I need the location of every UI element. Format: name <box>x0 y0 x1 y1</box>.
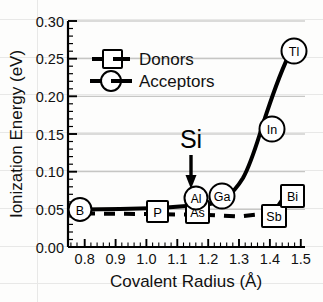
data-point-label: Al <box>191 192 202 206</box>
y-tick-label: 0.20 <box>36 89 64 105</box>
data-point-label: Sb <box>266 210 281 224</box>
x-tick-label: 1.2 <box>198 251 218 267</box>
x-tick-label: 1.4 <box>260 251 280 267</box>
x-tick-label: 1.5 <box>291 251 311 267</box>
y-tick-label: 0.05 <box>36 202 64 218</box>
x-axis-title: Covalent Radius (Å) <box>110 272 262 291</box>
data-point-label: B <box>76 204 84 218</box>
ionization-energy-chart: 0.30 0.25 0.20 0.15 0.10 0.05 0.00 0.8 0… <box>0 0 323 302</box>
data-point-Bi: Bi <box>281 185 304 207</box>
data-point-Sb: Sb <box>262 205 286 227</box>
x-tick-label: 0.8 <box>75 251 95 267</box>
data-point-Tl: Tl <box>282 39 307 64</box>
data-point-label: P <box>153 205 162 220</box>
data-point-Ga: Ga <box>210 184 235 209</box>
y-tick-label: 0.15 <box>36 127 64 143</box>
data-point-P: P <box>147 201 168 222</box>
y-tick-label: 0.00 <box>36 240 64 256</box>
x-tick-label: 1.1 <box>167 251 187 267</box>
x-tick-label: 0.9 <box>106 251 126 267</box>
data-point-B: B <box>69 198 92 221</box>
data-point-label: Tl <box>289 45 299 59</box>
data-point-In: In <box>260 117 285 142</box>
legend-item-acceptors: Acceptors <box>90 71 215 91</box>
y-axis-title: Ionization Energy (eV) <box>7 50 26 218</box>
si-annotation-label: Si <box>180 125 202 153</box>
y-tick-label: 0.25 <box>36 51 64 67</box>
data-point-Al: Al <box>185 187 208 210</box>
legend-label-acceptors: Acceptors <box>139 72 215 91</box>
x-tick-label: 1.0 <box>136 251 156 267</box>
data-point-label: Ga <box>214 190 231 204</box>
data-point-label: In <box>267 123 277 137</box>
data-point-label: Bi <box>287 190 298 204</box>
y-tick-label: 0.30 <box>36 14 64 30</box>
legend-item-donors: Donors <box>92 50 194 69</box>
legend-label-donors: Donors <box>139 50 194 69</box>
y-tick-label: 0.10 <box>36 164 64 180</box>
chart-svg: 0.30 0.25 0.20 0.15 0.10 0.05 0.00 0.8 0… <box>0 0 323 302</box>
x-tick-label: 1.3 <box>229 251 249 267</box>
